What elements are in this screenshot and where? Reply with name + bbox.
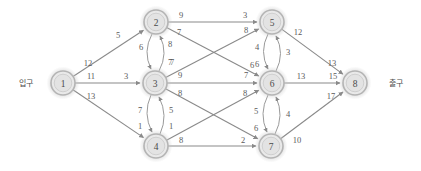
edge-weight-4-6-0: 8 <box>243 88 247 98</box>
node-8[interactable]: 8 <box>339 67 372 100</box>
node-1[interactable]: 1 <box>47 67 80 100</box>
node-4[interactable]: 4 <box>140 130 173 163</box>
curve-weight-6-5-0: 3 <box>286 47 290 57</box>
node-label-6: 6 <box>270 79 275 89</box>
node-2[interactable]: 2 <box>140 6 173 39</box>
edge-weight-3-6-0: 9 <box>178 70 182 80</box>
curve-weight-3-4-0: 7 <box>138 105 142 115</box>
exit-label: 출구 <box>389 78 403 88</box>
curve-weight-4-3-1: 1 <box>169 121 173 131</box>
edge-weight-1-4-0: 13 <box>87 91 96 101</box>
edge-weight-1-2-0: 12 <box>84 58 93 68</box>
edge-weight-3-7-1: 2 <box>241 135 245 145</box>
curve-weight-3-2-1: 7 <box>168 57 172 67</box>
node-label-1: 1 <box>61 79 66 89</box>
curve-weight-3-4-1: 1 <box>138 121 142 131</box>
curved-edge-5-to-6 <box>264 34 269 69</box>
edge-weight-6-8-0: 13 <box>297 71 306 81</box>
edge-weight-4-7-0: 8 <box>179 135 183 145</box>
edge-weight-2-5-1: 3 <box>243 10 247 20</box>
edge-1-to-2 <box>73 30 143 76</box>
node-6[interactable]: 6 <box>256 67 289 100</box>
edge-weight-2-6-0: 7 <box>177 27 181 37</box>
edge-weight-7-8-1: 17 <box>327 91 336 101</box>
curve-weight-2-3-0: 6 <box>139 42 143 52</box>
curved-edge-3-to-4 <box>147 95 152 132</box>
edge-weight-1-2-1: 5 <box>116 30 120 40</box>
curve-weight-6-7-1: 6 <box>254 123 258 133</box>
curved-edge-6-to-7 <box>263 95 268 132</box>
nodes-layer: 12345678 <box>47 6 372 163</box>
node-label-3: 3 <box>153 79 158 89</box>
node-label-2: 2 <box>154 18 159 28</box>
curved-edge-3-to-2 <box>159 36 164 71</box>
edges-layer <box>73 22 343 146</box>
curve-weight-5-6-0: 4 <box>255 42 260 52</box>
curve-weight-5-6-1: 6 <box>255 59 259 69</box>
curve-weight-4-3-0: 5 <box>169 105 173 115</box>
node-3[interactable]: 3 <box>139 67 172 100</box>
edge-weight-6-8-1: 15 <box>329 71 338 81</box>
edge-weight-3-5-1: 8 <box>244 25 248 35</box>
network-flow-diagram: 12345678 1251131393767897828812131315101… <box>0 0 421 171</box>
curved-edge-2-to-3 <box>147 34 152 69</box>
edge-weight-2-5-0: 9 <box>179 10 183 20</box>
node-label-7: 7 <box>269 142 274 152</box>
node-7[interactable]: 7 <box>255 130 288 163</box>
curve-weight-6-7-0: 5 <box>254 106 258 116</box>
edge-weight-7-8-0: 10 <box>293 135 302 145</box>
curved-edge-4-to-3 <box>159 97 164 134</box>
node-label-5: 5 <box>270 18 275 28</box>
edge-weight-1-3-1: 3 <box>124 71 128 81</box>
edge-weight-5-8-0: 12 <box>294 27 303 37</box>
curve-weight-7-6-0: 4 <box>286 109 291 119</box>
entrance-label: 입구 <box>19 79 33 88</box>
node-label-4: 4 <box>154 142 159 152</box>
curved-edge-6-to-5 <box>276 36 281 71</box>
edge-1-to-4 <box>73 90 144 138</box>
node-5[interactable]: 5 <box>256 6 289 39</box>
edge-weight-3-7-0: 8 <box>178 88 182 98</box>
edge-weight-3-6-1: 7 <box>244 70 248 80</box>
edge-weight-2-6-1: 6 <box>250 60 254 70</box>
edge-weight-5-8-1: 13 <box>328 58 337 68</box>
node-label-8: 8 <box>353 79 358 89</box>
curved-edge-7-to-6 <box>275 97 280 134</box>
edge-weight-1-3-0: 11 <box>87 71 95 81</box>
curve-weight-3-2-0: 8 <box>168 39 172 49</box>
graph-canvas: 12345678 1251131393767897828812131315101… <box>0 0 421 171</box>
